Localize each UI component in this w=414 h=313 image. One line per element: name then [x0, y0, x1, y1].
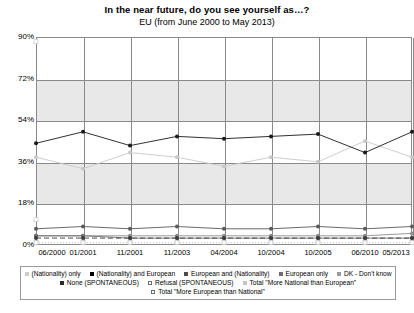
y-axis: 0%18%36%54%72%90% — [0, 37, 34, 245]
legend-item[interactable]: Total "More European than National" — [151, 287, 265, 296]
y-axis-tick-label: 90% — [2, 33, 34, 41]
data-point — [222, 137, 226, 141]
chart-container: In the near future, do you see yourself … — [0, 0, 414, 313]
legend-label: (Nationality) only — [32, 269, 81, 278]
legend-item[interactable]: European only — [279, 269, 329, 278]
data-point — [222, 164, 226, 168]
legend-marker-icon — [90, 272, 94, 276]
data-point — [222, 241, 226, 245]
data-point — [34, 218, 38, 222]
data-point — [34, 40, 38, 44]
series-layer — [36, 37, 412, 245]
legend-label: DK - Don't know — [344, 269, 391, 278]
data-point — [175, 225, 179, 229]
legend-label: (Nationality) and European — [97, 269, 175, 278]
data-point — [81, 130, 85, 134]
legend-marker-icon — [243, 281, 247, 285]
x-axis-tick-label: 10/2004 — [257, 248, 284, 257]
legend-marker-icon — [279, 272, 283, 276]
data-point — [410, 236, 414, 240]
data-point — [222, 236, 226, 240]
legend-item[interactable]: None (SPONTANEOUS) — [60, 278, 139, 287]
legend-marker-icon — [337, 272, 341, 276]
legend-item[interactable]: European and (Nationality) — [184, 269, 269, 278]
legend-item[interactable]: (Nationality) and European — [90, 269, 175, 278]
data-point — [175, 155, 179, 159]
data-point — [410, 225, 414, 229]
data-point — [363, 227, 367, 231]
data-point — [81, 225, 85, 229]
data-point — [363, 241, 367, 245]
legend-label: European only — [286, 269, 329, 278]
data-point — [175, 236, 179, 240]
legend-row-3: Total "More European than National" — [23, 287, 393, 296]
y-axis-tick-label: 54% — [2, 116, 34, 124]
series-2 — [34, 225, 414, 231]
legend-marker-icon — [60, 281, 64, 285]
data-point — [316, 225, 320, 229]
series-1 — [34, 130, 414, 155]
data-point — [34, 236, 38, 240]
data-point — [81, 236, 85, 240]
x-axis: 06/200001/200111/200111/200304/200410/20… — [36, 248, 412, 262]
legend-item[interactable]: (Nationality) only — [25, 269, 81, 278]
data-point — [81, 241, 85, 245]
data-point — [175, 134, 179, 138]
x-axis-tick-label: 11/2001 — [117, 248, 144, 257]
data-point — [34, 141, 38, 145]
data-point — [128, 151, 132, 155]
legend-item[interactable]: Total "More National than European" — [243, 278, 357, 287]
data-point — [410, 155, 414, 159]
legend-marker-icon — [151, 290, 155, 294]
data-point — [128, 144, 132, 148]
data-point — [410, 130, 414, 134]
data-point — [269, 241, 273, 245]
data-point — [128, 236, 132, 240]
y-axis-tick-label: 72% — [2, 75, 34, 83]
data-point — [363, 151, 367, 155]
series-line — [36, 132, 412, 153]
y-axis-tick-label: 18% — [2, 199, 34, 207]
series-0 — [34, 139, 414, 171]
data-point — [363, 236, 367, 240]
y-axis-tick-label: 0% — [2, 241, 34, 249]
data-point — [269, 236, 273, 240]
data-point — [316, 132, 320, 136]
x-axis-tick-label: 10/2005 — [304, 248, 331, 257]
series-5 — [34, 236, 414, 240]
data-point — [316, 160, 320, 164]
data-point — [269, 155, 273, 159]
chart-subtitle: EU (from June 2000 to May 2013) — [0, 16, 414, 28]
data-point — [363, 139, 367, 143]
data-point — [222, 227, 226, 231]
legend-label: Refusal (SPONTANEOUS) — [155, 278, 234, 287]
x-axis-tick-label: 04/2004 — [210, 248, 237, 257]
data-point — [410, 241, 414, 245]
y-axis-tick-label: 36% — [2, 158, 34, 166]
data-point — [316, 241, 320, 245]
data-point — [269, 227, 273, 231]
legend-item[interactable]: DK - Don't know — [337, 269, 391, 278]
x-axis-tick-label: 06/2000 — [38, 248, 65, 257]
chart-legend: (Nationality) only(Nationality) and Euro… — [20, 266, 396, 300]
legend-marker-icon — [148, 281, 152, 285]
series-7 — [34, 40, 38, 44]
legend-row-2: None (SPONTANEOUS)Refusal (SPONTANEOUS)T… — [23, 278, 393, 287]
legend-label: None (SPONTANEOUS) — [67, 278, 139, 287]
chart-title: In the near future, do you see yourself … — [0, 4, 414, 16]
data-point — [128, 241, 132, 245]
data-point — [316, 236, 320, 240]
title-block: In the near future, do you see yourself … — [0, 4, 414, 28]
legend-item[interactable]: Refusal (SPONTANEOUS) — [148, 278, 234, 287]
data-point — [175, 241, 179, 245]
x-axis-tick-label: 05/2013 — [382, 248, 409, 257]
data-point — [269, 134, 273, 138]
series-6 — [34, 241, 414, 245]
data-point — [34, 227, 38, 231]
data-point — [34, 155, 38, 159]
legend-label: European and (Nationality) — [191, 269, 269, 278]
data-point — [34, 241, 38, 245]
data-point — [410, 231, 414, 235]
legend-marker-icon — [25, 272, 29, 276]
legend-marker-icon — [184, 272, 188, 276]
